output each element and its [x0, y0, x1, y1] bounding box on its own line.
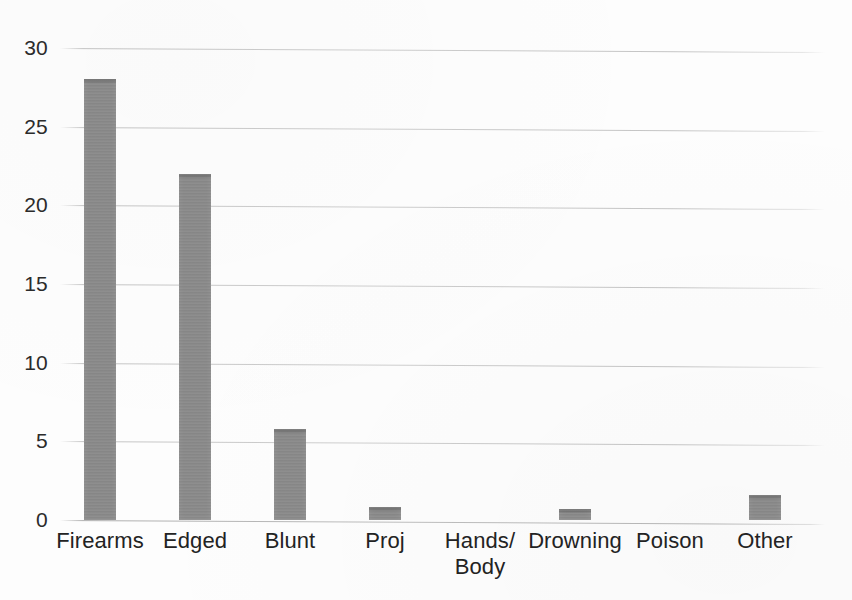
bar-other: [749, 495, 781, 520]
bar-blunt: [274, 429, 306, 520]
bar-edged: [179, 174, 211, 520]
bar-chart: 051015202530 FirearmsEdgedBluntProjHands…: [0, 0, 852, 600]
bar-proj: [369, 507, 401, 520]
plot-area: 051015202530 FirearmsEdgedBluntProjHands…: [0, 0, 852, 600]
axis-baseline: [60, 520, 825, 525]
bar-drowning: [559, 509, 591, 520]
x-axis-label-other: Other: [695, 528, 835, 554]
bar-firearms: [84, 79, 116, 520]
bar-group: [0, 0, 852, 520]
